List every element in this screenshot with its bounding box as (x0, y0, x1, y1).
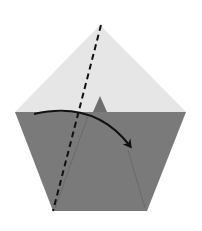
diagram-svg (0, 0, 202, 231)
origami-diagram (0, 0, 202, 231)
paper-bottom-face (15, 112, 186, 211)
